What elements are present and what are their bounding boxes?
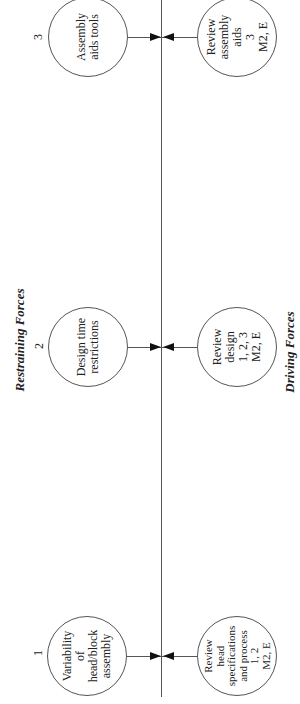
- restraining-force-node-1: Variability of head/block assembly: [47, 616, 127, 696]
- driving-arrowhead-2-icon: [163, 343, 174, 351]
- restraining-force-node-2: Design time restrictions: [48, 307, 128, 387]
- restraining-forces-label: Restraining Forces: [12, 289, 28, 392]
- restraining-force-text-2: Design time restrictions: [75, 307, 101, 387]
- driving-force-node-2: Review design 1, 2, 3 M2, E: [197, 307, 277, 387]
- driving-force-node-1: Review head specifications and process 1…: [197, 616, 277, 696]
- driving-force-text-1: Review head specifications and process 1…: [203, 616, 272, 696]
- center-divider-line: [161, 0, 162, 697]
- restraining-arrowhead-1-icon: [150, 652, 161, 660]
- restraining-force-number-3: 3: [31, 34, 46, 40]
- driving-arrowhead-3-icon: [163, 33, 174, 41]
- driving-force-text-3: Review assembly aids 3 M2, E: [205, 0, 270, 77]
- driving-force-text-2: Review design 1, 2, 3 M2, E: [211, 307, 263, 387]
- driving-forces-label: Driving Forces: [282, 311, 298, 392]
- restraining-force-number-2: 2: [32, 343, 47, 349]
- restraining-arrowhead-2-icon: [150, 343, 161, 351]
- restraining-arrowhead-3-icon: [150, 33, 161, 41]
- force-field-diagram: 3 Assembly aids tools Review assembly ai…: [0, 0, 300, 704]
- driving-arrowhead-1-icon: [163, 652, 174, 660]
- driving-force-node-3: Review assembly aids 3 M2, E: [197, 0, 277, 77]
- restraining-force-text-3: Assembly aids tools: [75, 0, 101, 77]
- restraining-force-number-1: 1: [31, 650, 46, 656]
- restraining-force-text-1: Variability of head/block assembly: [61, 616, 113, 696]
- restraining-force-node-3: Assembly aids tools: [48, 0, 128, 77]
